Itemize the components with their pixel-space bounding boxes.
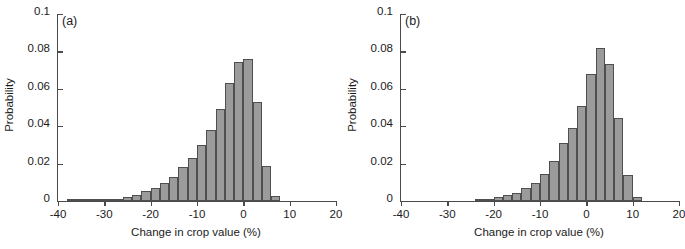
panel-a-y-tick-label: 0.06 [28,81,50,93]
panel-a-bar [160,183,169,201]
panel-a-bar [253,102,262,201]
panel-b-bar [577,106,586,201]
panel-b-x-tick-mark [586,201,587,206]
panel-b-bar [559,143,568,201]
panel-a-bar [178,167,187,201]
panel-b-x-tick-label: 20 [673,208,685,220]
panel-a-bars [58,14,336,201]
panel-b-x-axis-label: Change in crop value (%) [400,226,678,238]
panel-b-bar [521,188,530,201]
panel-a-y-axis-label: Probability [3,78,15,132]
panel-a-y-tick-mark [58,126,63,127]
panel-a-ylabel-wrap: Probability [0,0,40,210]
panel-b-x-tick-label: -10 [532,208,549,220]
panel-a-bar [197,145,206,201]
panel-a-bar [67,199,76,201]
panel-b-bar [475,199,484,201]
panel-b-x-tick-label: -30 [439,208,456,220]
panel-a-x-tick-label: -40 [50,208,67,220]
panel-a-x-tick-label: 20 [330,208,343,220]
panel-a-bar [104,199,113,201]
panel-b-ylabel-wrap: Probability [343,0,383,210]
panel-a-x-tick-mark [197,201,198,206]
panel-b-y-tick-mark [401,89,406,90]
panel-b-bar [531,183,540,201]
panel-b-bar [540,174,549,201]
panel-a-bar [95,199,104,201]
panel-a-x-tick-label: -20 [142,208,159,220]
panel-a-bar [243,59,252,201]
panel-a-bar [132,195,141,201]
panel-a-x-tick-mark [290,201,291,206]
panel-a-x-tick-mark [151,201,152,206]
panel-a-y-tick-label: 0.04 [28,118,50,130]
panel-a-x-tick-mark [243,201,244,206]
panel-a-x-tick-label: -30 [96,208,113,220]
panel-b-y-tick-label: 0.02 [371,156,393,168]
panel-a-y-tick-label: 0.02 [28,156,50,168]
panel-a-bar [271,196,280,201]
panel-b-y-tick-label: 0.1 [377,6,393,18]
panel-a-x-axis-label: Change in crop value (%) [57,226,335,238]
panel-a-plot-area: 00.020.040.060.080.1-40-30-20-1001020 [57,14,336,202]
panel-b-bar [512,193,521,201]
panel-a-y-tick-mark [58,51,63,52]
panel-a-x-tick-label: 0 [240,208,246,220]
panel-b-bar [484,199,493,201]
panel-b-x-tick-label: -40 [393,208,410,220]
panel-a-bar [188,158,197,201]
panel-a-y-tick-mark [58,164,63,165]
panel-a-bar [225,83,234,201]
panel-b-x-tick-mark [540,201,541,206]
panel-a-bar [234,62,243,201]
panel-b-y-tick-mark [401,126,406,127]
panel-a-bar [151,188,160,201]
panel-b-x-tick-mark [494,201,495,206]
panel-b-bar [549,161,558,201]
panel-b-bar [586,74,595,201]
panel-a-x-tick-mark [104,201,105,206]
panel-a-y-tick-mark [58,14,63,15]
panel-a-y-tick-label: 0 [44,193,50,205]
panel-a-y-tick-label: 0.08 [28,43,50,55]
panel-b-x-tick-mark [447,201,448,206]
panel-b-bars [401,14,679,201]
panel-a-bar [206,130,215,201]
panel-a: Probability (a) 00.020.040.060.080.1-40-… [0,0,342,249]
panel-b-bar [503,195,512,201]
panel-a-bar [123,197,132,201]
panel-a-y-tick-mark [58,89,63,90]
panel-a-x-tick-label: 10 [283,208,296,220]
panel-b: Probability (b) 00.020.040.060.080.1-40-… [343,0,685,249]
figure-two-histograms: Probability (a) 00.020.040.060.080.1-40-… [0,0,685,249]
panel-b-y-tick-label: 0.04 [371,118,393,130]
panel-b-bar [494,197,503,201]
panel-b-y-tick-label: 0.06 [371,81,393,93]
panel-a-bar [141,191,150,201]
panel-a-bar [216,109,225,201]
panel-b-y-axis-label: Probability [346,78,358,132]
panel-b-y-tick-mark [401,14,406,15]
panel-a-bar [86,199,95,201]
panel-b-x-tick-mark [679,201,680,206]
panel-b-y-tick-label: 0.08 [371,43,393,55]
panel-a-bar [262,166,271,201]
panel-a-x-tick-mark [58,201,59,206]
panel-b-bar [623,175,632,201]
panel-b-y-tick-mark [401,164,406,165]
panel-a-x-tick-mark [336,201,337,206]
panel-b-x-tick-label: -20 [485,208,502,220]
panel-b-plot-area: 00.020.040.060.080.1-40-30-20-1001020 [400,14,679,202]
panel-b-bar [614,118,623,201]
panel-a-bar [77,199,86,201]
panel-b-bar [605,64,614,201]
panel-b-x-tick-mark [401,201,402,206]
panel-b-y-tick-label: 0 [387,193,393,205]
panel-b-bar [568,128,577,201]
panel-a-bar [169,177,178,201]
panel-b-bar [633,197,642,201]
panel-b-x-tick-label: 0 [583,208,589,220]
panel-a-bar [114,199,123,201]
panel-b-x-tick-mark [633,201,634,206]
panel-a-x-tick-label: -10 [189,208,206,220]
